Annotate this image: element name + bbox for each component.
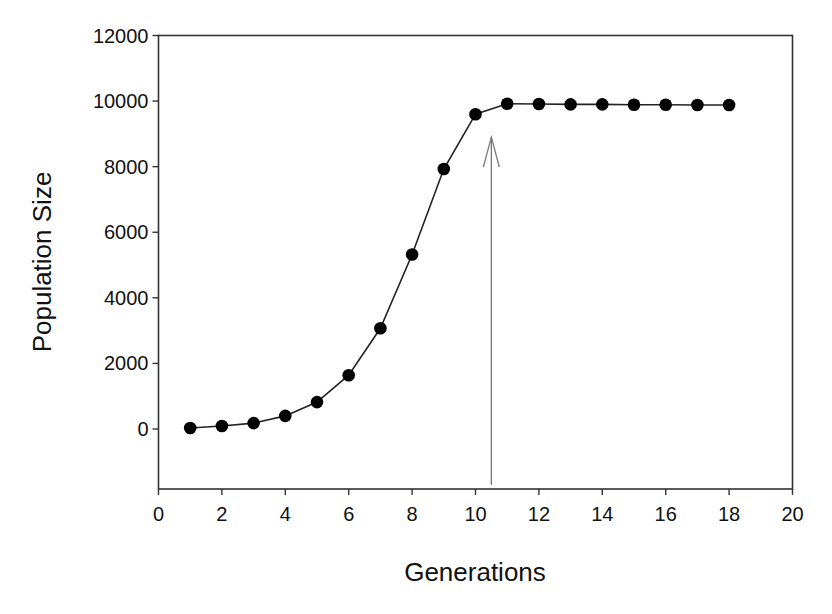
series-line — [190, 104, 729, 428]
data-point — [406, 248, 419, 261]
data-point — [533, 98, 546, 111]
x-tick-label: 20 — [781, 503, 803, 525]
x-tick-label: 12 — [528, 503, 550, 525]
data-point — [564, 98, 577, 111]
x-axis-title: Generations — [404, 557, 546, 587]
y-tick-label: 6000 — [104, 221, 149, 243]
data-point — [342, 369, 355, 382]
y-tick-label: 8000 — [104, 156, 149, 178]
data-point — [628, 98, 641, 111]
x-tick-label: 6 — [343, 503, 354, 525]
data-point — [311, 396, 324, 409]
data-series — [184, 97, 736, 434]
annotation-arrow — [483, 137, 499, 485]
y-tick-label: 4000 — [104, 287, 149, 309]
data-point — [723, 99, 736, 112]
x-tick-label: 16 — [655, 503, 677, 525]
x-tick-label: 2 — [216, 503, 227, 525]
data-point — [374, 322, 387, 335]
x-axis: 02468101214161820 — [153, 489, 804, 525]
y-tick-label: 10000 — [93, 90, 149, 112]
y-tick-label: 2000 — [104, 352, 149, 374]
x-tick-label: 4 — [280, 503, 291, 525]
y-axis-title: Population Size — [27, 172, 57, 353]
x-tick-label: 18 — [718, 503, 740, 525]
data-point — [469, 108, 482, 121]
data-point — [279, 410, 292, 423]
data-point — [247, 417, 260, 430]
x-tick-label: 10 — [464, 503, 486, 525]
data-point — [184, 422, 197, 435]
data-point — [596, 98, 609, 111]
y-tick-label: 0 — [137, 418, 148, 440]
data-point — [216, 420, 229, 433]
population-chart: 020004000600080001000012000 024681012141… — [0, 0, 832, 614]
x-tick-label: 8 — [407, 503, 418, 525]
data-point — [501, 97, 514, 110]
data-point — [659, 98, 672, 111]
x-tick-label: 14 — [591, 503, 613, 525]
data-point — [691, 99, 704, 112]
y-tick-label: 12000 — [93, 25, 149, 47]
x-tick-label: 0 — [153, 503, 164, 525]
data-point — [438, 163, 451, 176]
y-axis: 020004000600080001000012000 — [93, 25, 159, 440]
